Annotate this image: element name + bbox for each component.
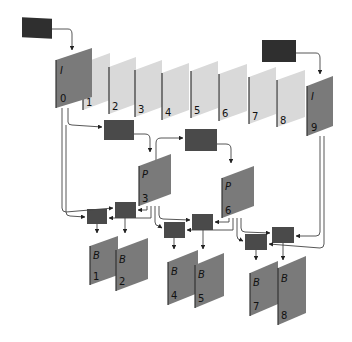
raw-frame-index: 2: [112, 101, 118, 112]
frame-index-label: 3: [142, 193, 148, 204]
p-frame-6: P 6: [222, 166, 254, 218]
encoder-box-b7: [245, 234, 267, 250]
raw-frame-index: 5: [194, 105, 200, 116]
b-frame-4: B 4: [168, 250, 198, 305]
source-box-left: [22, 17, 52, 39]
raw-frame-index: 7: [252, 111, 258, 122]
frame-index-label: 5: [198, 293, 204, 304]
frame-type-label: B: [119, 254, 126, 265]
frame-index-label: 1: [93, 271, 99, 282]
raw-frame-index: 8: [280, 115, 286, 126]
frame-index-label: 6: [225, 205, 231, 216]
raw-frame-8: 8: [277, 70, 305, 127]
frame-index-label: 8: [281, 310, 287, 321]
frame-type-label: B: [171, 266, 178, 277]
raw-frame-4: 4: [162, 63, 189, 120]
gop-frame-diagram: 1 2 3 4 5 6 7: [0, 0, 352, 342]
raw-frame-5: 5: [191, 61, 218, 118]
raw-frame-index: 1: [86, 97, 92, 108]
b-frame-2: B 2: [116, 238, 148, 291]
raw-frame-3: 3: [135, 60, 162, 117]
frame-type-label: I: [60, 65, 63, 76]
frame-type-label: P: [225, 181, 232, 192]
encoder-box-b2: [115, 202, 136, 218]
b-frame-8: B 8: [278, 256, 306, 325]
source-box-right: [262, 40, 296, 62]
b-frame-1: B 1: [90, 236, 118, 285]
raw-frame-2: 2: [109, 57, 136, 114]
i-frame-9: I 9: [307, 76, 333, 136]
raw-frame-6: 6: [219, 64, 247, 121]
frame-type-label: B: [93, 250, 100, 261]
encoder-box-b8: [272, 227, 294, 243]
raw-frame-index: 6: [222, 108, 228, 119]
frame-type-label: B: [198, 269, 205, 280]
frame-type-label: B: [253, 277, 260, 288]
b-frame-7: B 7: [250, 261, 278, 316]
frame-index-label: 2: [119, 276, 125, 287]
frame-index-label: 9: [311, 122, 317, 133]
frame-type-label: I: [311, 91, 314, 102]
raw-frame-index: 4: [165, 107, 171, 118]
encoder-box-b4: [164, 222, 185, 238]
b-frame-5: B 5: [195, 253, 224, 308]
raw-frame-7: 7: [249, 67, 276, 124]
frame-index-label: 0: [60, 93, 66, 104]
frame-type-label: P: [142, 169, 149, 180]
raw-frame-index: 3: [138, 104, 144, 115]
encoder-box-p3: [104, 120, 134, 140]
p-frame-3: P 3: [139, 154, 171, 206]
frame-index-label: 7: [253, 301, 259, 312]
frame-type-label: B: [281, 273, 288, 284]
frame-index-label: 4: [171, 290, 177, 301]
raw-frames: 1 2 3 4 5 6 7: [83, 53, 305, 127]
encoder-box-p6: [185, 129, 217, 151]
encoder-box-b5: [192, 214, 213, 230]
encoder-box-b1: [87, 209, 107, 224]
